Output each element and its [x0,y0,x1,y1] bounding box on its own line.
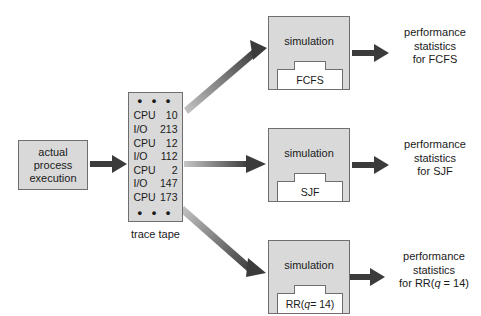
arrow-sim-sjf-to-stats [352,156,389,174]
simulation-title: simulation [269,147,349,159]
trace-row-value: 12 [166,137,178,151]
simulation-box-sjf: simulation SJF [268,128,350,202]
algorithm-label-sjf: SJF [277,182,343,202]
trace-row-value: 112 [161,150,178,164]
trace-row-op: I/O [134,150,148,164]
perf-line3: for FCFS [392,53,478,67]
trace-tape-bottom-ellipsis: • • • [138,205,174,221]
actual-box-line1: actual [29,146,76,159]
perf-line1: performance [386,250,481,264]
arrow-sim-rr-to-stats [348,268,385,286]
perf-line2: statistics [392,40,478,54]
algorithm-plate-rr: RR(q = 14) [277,285,343,314]
trace-row-value: 213 [160,123,178,137]
trace-tape-label: trace tape [108,228,203,240]
trace-tape-row: CPU 10 [134,109,178,123]
trace-row-value: 173 [160,191,178,205]
trace-row-value: 10 [166,109,178,123]
trace-row-op: CPU [134,137,156,151]
trace-tape-box: • • • CPU 10 I/O 213 CPU 12 I/O 112 CPU … [128,92,183,222]
performance-statistics-fcfs: performance statistics for FCFS [392,26,478,67]
algorithm-label-rr: RR(q = 14) [277,294,343,314]
actual-box-line2: process [29,159,76,172]
trace-row-op: CPU [134,109,156,123]
arrow-tape-to-sim-sjf [184,155,266,173]
perf-line2: statistics [392,152,478,166]
algorithm-plate-fcfs: FCFS [277,61,343,90]
trace-row-op: CPU [134,191,156,205]
arrow-tape-to-sim-rr [180,206,266,277]
trace-row-value: 2 [172,164,178,178]
algorithm-name: SJF [301,186,320,198]
algorithm-plate-sjf: SJF [277,173,343,202]
trace-tape-rows: • • • CPU 10 I/O 213 CPU 12 I/O 112 CPU … [129,93,182,221]
trace-row-op: I/O [134,177,148,191]
performance-statistics-sjf: performance statistics for SJF [392,138,478,179]
perf-line3-prefix: for RR( [399,277,434,289]
arrow-sim-fcfs-to-stats [352,44,389,62]
trace-row-value: 147 [160,177,178,191]
perf-line1: performance [392,138,478,152]
trace-tape-top-ellipsis: • • • [138,93,174,109]
arrow-execution-to-tape [90,155,127,173]
diagram-canvas: actual process execution • • • CPU 10 I/… [0,0,481,316]
simulation-box-rr: simulation RR(q = 14) [268,240,350,314]
algorithm-name-suffix: = 14) [310,298,334,310]
trace-row-op: I/O [134,123,148,137]
perf-line3-suffix: = 14) [441,277,469,289]
trace-tape-row: I/O 213 [134,123,178,137]
trace-tape-row: CPU 2 [134,164,178,178]
arrow-tape-to-sim-fcfs [184,40,267,114]
perf-line3: for SJF [392,165,478,179]
trace-tape-row: I/O 147 [134,177,178,191]
trace-tape-row: I/O 112 [134,150,178,164]
actual-box-line3: execution [29,172,76,185]
trace-tape-row: CPU 12 [134,137,178,151]
actual-process-execution-box: actual process execution [18,140,88,190]
perf-line2: statistics [386,264,481,278]
simulation-title: simulation [269,259,349,271]
algorithm-label-fcfs: FCFS [277,70,343,90]
performance-statistics-rr: performance statistics for RR(q = 14) [386,250,481,291]
trace-row-op: CPU [134,164,156,178]
trace-tape-row: CPU 173 [134,191,178,205]
simulation-box-fcfs: simulation FCFS [268,16,350,90]
algorithm-name: FCFS [296,74,323,86]
simulation-title: simulation [269,35,349,47]
perf-line1: performance [392,26,478,40]
algorithm-name-prefix: RR( [286,298,305,310]
perf-line3: for RR(q = 14) [386,277,481,291]
